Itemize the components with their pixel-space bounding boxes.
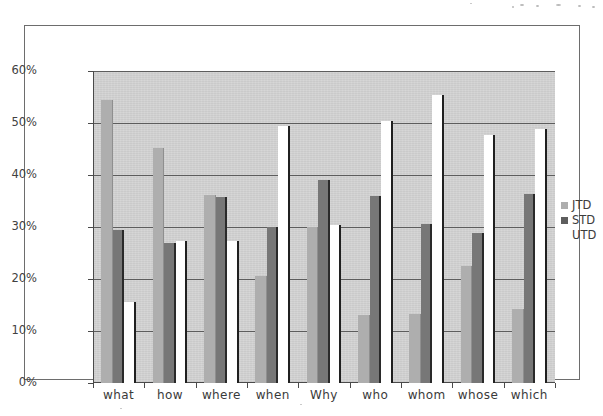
x-tick-label-what: what <box>93 388 144 402</box>
bar-utd-whose[interactable] <box>484 135 496 383</box>
bar-jtd-who[interactable] <box>358 315 370 383</box>
scan-speck <box>556 4 561 6</box>
y-tick-mark <box>88 279 94 280</box>
legend-label: STD <box>572 214 595 226</box>
bar-jtd-what[interactable] <box>101 100 113 383</box>
scan-speck <box>520 4 524 6</box>
y-tick-label: 50% <box>0 117 37 128</box>
x-tick-label-why: Why <box>298 388 349 402</box>
x-tick-label-who: who <box>350 388 401 402</box>
x-tick-label-when: when <box>247 388 298 402</box>
x-tick-label-where: where <box>196 388 247 402</box>
legend-item-std[interactable]: STD <box>561 213 603 227</box>
x-tick-mark <box>144 383 145 388</box>
y-tick-mark <box>88 227 94 228</box>
bar-jtd-why[interactable] <box>307 227 319 383</box>
bar-utd-what[interactable] <box>124 302 136 383</box>
chart-legend: JTDSTDUTD <box>561 198 603 243</box>
bar-jtd-how[interactable] <box>153 148 165 383</box>
bar-utd-when[interactable] <box>278 126 290 383</box>
bar-std-which[interactable] <box>524 194 536 383</box>
bar-std-whom[interactable] <box>421 224 433 383</box>
bar-jtd-whose[interactable] <box>461 266 473 383</box>
bar-utd-which[interactable] <box>535 129 547 383</box>
scan-speck <box>470 3 472 4</box>
scan-speck <box>592 6 595 8</box>
chart-figure-frame: 0%10%20%30%40%50%60% whathowwherewhenWhy… <box>24 25 580 380</box>
bar-group <box>504 71 555 383</box>
x-tick-mark <box>555 383 556 388</box>
bar-jtd-where[interactable] <box>204 195 216 383</box>
x-tick-label-how: how <box>144 388 195 402</box>
legend-swatch-icon <box>561 202 568 209</box>
bar-std-how[interactable] <box>164 243 176 383</box>
y-tick-label: 10% <box>0 325 37 336</box>
bar-group <box>93 71 144 383</box>
bar-group <box>298 71 349 383</box>
bar-group <box>247 71 298 383</box>
bar-utd-whom[interactable] <box>432 95 444 383</box>
y-tick-mark <box>88 331 94 332</box>
x-tick-mark <box>196 383 197 388</box>
x-tick-mark <box>401 383 402 388</box>
bar-std-why[interactable] <box>318 180 330 383</box>
y-tick-label: 40% <box>0 169 37 180</box>
scan-speck <box>536 5 539 7</box>
bar-std-where[interactable] <box>216 197 228 383</box>
bar-group <box>452 71 503 383</box>
x-tick-mark <box>298 383 299 388</box>
x-tick-label-whom: whom <box>401 388 452 402</box>
legend-swatch-icon <box>561 217 568 224</box>
bars-layer <box>93 71 555 383</box>
legend-item-jtd[interactable]: JTD <box>561 198 603 212</box>
bar-std-whose[interactable] <box>472 233 484 383</box>
bar-utd-why[interactable] <box>330 225 342 383</box>
x-tick-label-which: which <box>504 388 555 402</box>
bar-jtd-whom[interactable] <box>409 314 421 383</box>
scan-speck <box>120 408 122 409</box>
legend-swatch-icon <box>561 232 568 239</box>
bar-std-when[interactable] <box>267 227 279 383</box>
scan-speck <box>578 5 581 7</box>
y-tick-mark <box>88 123 94 124</box>
bar-group <box>196 71 247 383</box>
bar-utd-who[interactable] <box>381 121 393 383</box>
x-axis: whathowwherewhenWhywhowhomwhosewhich <box>93 388 555 408</box>
bar-utd-where[interactable] <box>227 241 239 383</box>
x-tick-mark <box>93 383 94 388</box>
x-tick-mark <box>452 383 453 388</box>
scan-speck <box>512 6 514 8</box>
bar-std-what[interactable] <box>113 230 125 383</box>
bar-group <box>401 71 452 383</box>
x-tick-mark <box>350 383 351 388</box>
x-tick-label-whose: whose <box>452 388 503 402</box>
bar-group <box>350 71 401 383</box>
y-tick-label: 30% <box>0 221 37 232</box>
legend-label: UTD <box>572 229 596 241</box>
bar-jtd-which[interactable] <box>512 309 524 383</box>
x-tick-mark <box>504 383 505 388</box>
y-tick-label: 60% <box>0 65 37 76</box>
y-tick-label: 20% <box>0 273 37 284</box>
legend-item-utd[interactable]: UTD <box>561 228 603 242</box>
bar-utd-how[interactable] <box>176 241 188 383</box>
bar-jtd-when[interactable] <box>255 276 267 383</box>
legend-label: JTD <box>572 199 591 211</box>
y-tick-label: 0% <box>0 377 37 388</box>
bar-group <box>144 71 195 383</box>
y-tick-mark <box>88 71 94 72</box>
y-tick-mark <box>88 175 94 176</box>
x-tick-mark <box>247 383 248 388</box>
bar-std-who[interactable] <box>370 196 382 383</box>
